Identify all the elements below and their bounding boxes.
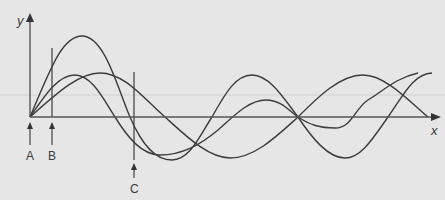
x-axis-arrow-icon	[431, 113, 441, 121]
marker-arrow-b-icon	[49, 122, 55, 129]
y-axis-arrow-icon	[26, 13, 34, 22]
y-axis-label: y	[16, 13, 25, 28]
marker-arrow-a-icon	[27, 122, 33, 129]
marker-label-b: B	[48, 149, 56, 163]
marker-label-a: A	[26, 149, 34, 163]
x-axis-label: x	[430, 123, 438, 138]
wave-diagram: y x A B C	[0, 0, 445, 200]
wave-2-curve	[30, 73, 418, 155]
marker-arrow-c-icon	[131, 163, 137, 170]
marker-label-c: C	[130, 182, 139, 196]
wave-3-curve	[30, 73, 428, 158]
